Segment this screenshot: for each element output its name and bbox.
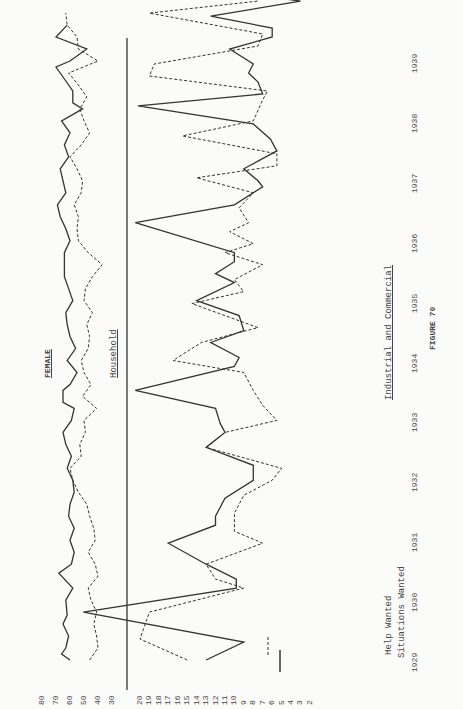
industrial-tick: 17 bbox=[163, 695, 172, 705]
legend-situations-wanted: Situations Wanted bbox=[397, 566, 407, 658]
industrial-tick: 13 bbox=[201, 695, 210, 705]
year-tick: 1930 bbox=[410, 593, 419, 612]
year-tick: 1934 bbox=[410, 353, 419, 372]
year-tick: 1936 bbox=[410, 233, 419, 252]
industrial-tick: 2 bbox=[305, 700, 314, 705]
year-tick: 1938 bbox=[410, 114, 419, 133]
figure-page: 807060504030 201918171615141312111098765… bbox=[0, 0, 463, 709]
household-series bbox=[56, 13, 102, 660]
industrial-tick: 6 bbox=[267, 700, 276, 705]
household-tick: 50 bbox=[79, 695, 88, 705]
industrial-tick: 16 bbox=[173, 695, 182, 705]
household-subtitle: Household bbox=[109, 329, 119, 378]
year-tick: 1935 bbox=[410, 293, 419, 312]
year-tick: 1931 bbox=[410, 533, 419, 552]
household-tick: 80 bbox=[37, 695, 46, 705]
industrial-tick: 5 bbox=[277, 700, 286, 705]
industrial-tick: 14 bbox=[192, 695, 201, 705]
year-tick: 1939 bbox=[410, 54, 419, 73]
industrial-tick: 10 bbox=[229, 695, 238, 705]
household-tick: 60 bbox=[65, 695, 74, 705]
figure-caption: FIGURE 70 bbox=[428, 307, 437, 350]
year-tick: 1937 bbox=[410, 174, 419, 193]
industrial-tick: 9 bbox=[239, 700, 248, 705]
household-tick: 30 bbox=[107, 695, 116, 705]
year-tick: 1933 bbox=[410, 413, 419, 432]
household-situations-wanted-line bbox=[56, 25, 87, 660]
industrial-tick: 8 bbox=[248, 700, 257, 705]
industrial-tick: 15 bbox=[182, 695, 191, 705]
year-tick: 1929 bbox=[410, 653, 419, 672]
industrial-tick: 20 bbox=[135, 695, 144, 705]
household-tick: 70 bbox=[51, 695, 60, 705]
industrial-tick: 4 bbox=[286, 700, 295, 705]
industrial-tick: 7 bbox=[258, 700, 267, 705]
industrial-tick: 3 bbox=[295, 700, 304, 705]
industrial-tick: 11 bbox=[220, 695, 229, 705]
household-tick: 40 bbox=[93, 695, 102, 705]
industrial-subtitle: Industrial and Commercial bbox=[384, 265, 394, 400]
female-title: FEMALE bbox=[43, 349, 52, 378]
industrial-tick: 18 bbox=[154, 695, 163, 705]
industrial-tick: 19 bbox=[144, 695, 153, 705]
industrial-tick: 12 bbox=[211, 695, 220, 705]
legend-help-wanted: Help Wanted bbox=[384, 596, 394, 655]
year-tick: 1932 bbox=[410, 473, 419, 492]
